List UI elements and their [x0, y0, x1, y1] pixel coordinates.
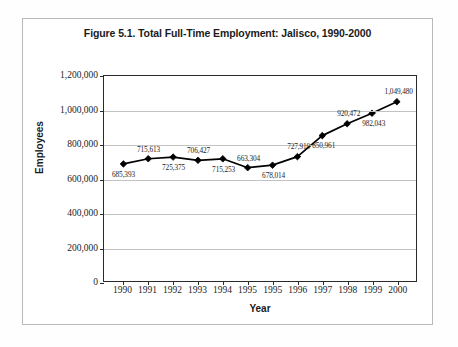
x-axis-tick-label: 1995 [263, 285, 282, 295]
y-axis-tick-labels: 0200,000400,000600,000800,0001,000,0001,… [40, 75, 98, 282]
data-point-marker [269, 162, 276, 169]
y-axis-tick-label: 200,000 [67, 243, 98, 253]
x-axis-tick-label: 1994 [213, 285, 232, 295]
data-point-marker [220, 156, 227, 163]
data-point-label: 715,613 [137, 145, 160, 154]
y-axis-tick-label: 800,000 [67, 139, 98, 149]
x-axis-tick-label: 1993 [188, 285, 207, 295]
y-axis-tickmark [100, 180, 104, 181]
data-point-label: 850,961 [312, 141, 335, 150]
gridline [104, 180, 416, 181]
y-axis-tick-label: 1,200,000 [60, 70, 98, 80]
data-point-marker [120, 161, 127, 168]
plot-area: 685,393715,613725,375706,427715,253663,3… [103, 75, 417, 282]
data-point-label: 685,393 [112, 170, 135, 179]
data-point-label: 706,427 [187, 146, 210, 155]
data-point-label: 715,253 [212, 165, 235, 174]
y-axis-tickmark [100, 214, 104, 215]
data-point-label: 678,014 [262, 171, 285, 180]
x-axis-tick-label: 1996 [288, 285, 307, 295]
data-point-label: 725,375 [162, 163, 185, 172]
data-point-label: 663,304 [237, 154, 260, 163]
y-axis-tickmark [100, 76, 104, 77]
x-axis-tick-label: 1990 [113, 285, 132, 295]
y-axis-tick-label: 1,000,000 [60, 105, 98, 115]
y-axis-tickmark [100, 249, 104, 250]
data-point-marker [170, 154, 177, 161]
x-axis-tick-label: 1992 [163, 285, 182, 295]
x-axis-tick-label: 1991 [138, 285, 157, 295]
data-point-marker [244, 164, 251, 171]
data-point-marker [344, 120, 351, 127]
y-axis-tickmark [100, 145, 104, 146]
y-axis-tickmark [100, 283, 104, 284]
data-point-label: 982,043 [362, 119, 385, 128]
employment-line-series [104, 76, 416, 281]
gridline [104, 214, 416, 215]
x-axis-tick-label: 1998 [338, 285, 357, 295]
y-axis-tick-label: 400,000 [67, 208, 98, 218]
gridline [104, 111, 416, 112]
x-axis-tick-label: 1995 [238, 285, 257, 295]
data-point-marker [394, 98, 401, 105]
data-point-marker [145, 155, 152, 162]
x-axis-title: Year [103, 303, 417, 314]
figure-page: Figure 5.1. Total Full-Time Employment: … [0, 0, 458, 347]
data-point-label: 1,049,480 [385, 87, 413, 96]
y-axis-tickmark [100, 111, 104, 112]
data-point-label: 920,472 [337, 109, 360, 118]
y-axis-tick-label: 600,000 [67, 174, 98, 184]
chart-title: Figure 5.1. Total Full-Time Employment: … [22, 27, 433, 39]
x-axis-tick-labels: 1990199119921993199419951995199619971998… [103, 285, 417, 299]
gridline [104, 249, 416, 250]
data-point-label: 727,910 [287, 142, 310, 151]
x-axis-tick-label: 1997 [313, 285, 332, 295]
y-axis-tick-label: 0 [93, 277, 98, 287]
x-axis-tick-label: 2000 [388, 285, 407, 295]
x-axis-tick-label: 1999 [363, 285, 382, 295]
data-point-marker [195, 157, 202, 164]
